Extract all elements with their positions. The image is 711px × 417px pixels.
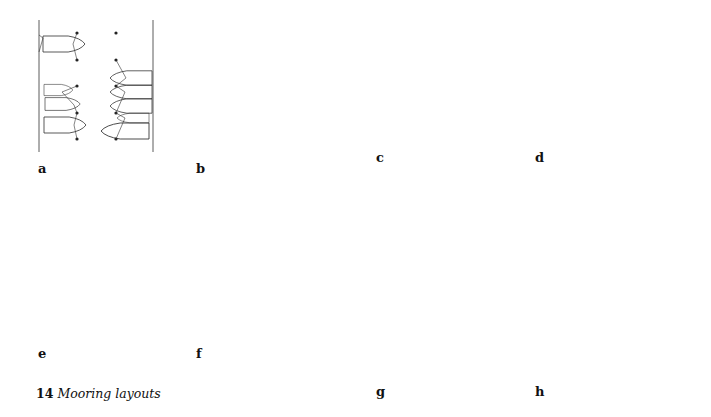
panel-label-b: b [196,161,205,176]
panel-a [39,20,153,152]
mooring-diagram [0,0,711,417]
figure-number: 14 [36,386,53,401]
panel-label-g: g [376,384,385,399]
panel-label-a: a [38,161,46,176]
figure-title: Mooring layouts [57,386,160,401]
panel-label-h: h [535,384,544,399]
figure-caption: 14Mooring layouts [36,386,161,401]
panel-label-e: e [38,346,46,361]
panel-label-d: d [535,150,544,165]
panel-label-c: c [376,150,384,165]
panel-label-f: f [196,346,202,361]
